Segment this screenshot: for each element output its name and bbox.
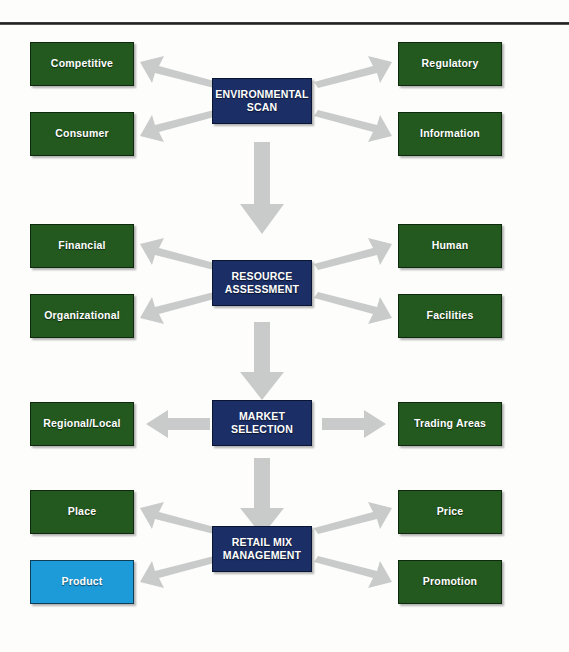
node-label: Price bbox=[433, 505, 468, 518]
arrow-resource-to-facilities bbox=[314, 292, 392, 324]
node-place[interactable]: Place bbox=[30, 490, 134, 534]
node-organizational[interactable]: Organizational bbox=[30, 294, 134, 338]
node-financial[interactable]: Financial bbox=[30, 224, 134, 268]
node-label: ENVIRONMENTAL SCAN bbox=[211, 88, 312, 114]
arrow-resource-to-financial bbox=[140, 238, 218, 270]
node-promotion[interactable]: Promotion bbox=[398, 560, 502, 604]
node-label: Trading Areas bbox=[410, 417, 490, 430]
node-regulatory[interactable]: Regulatory bbox=[398, 42, 502, 86]
node-label: Competitive bbox=[47, 57, 117, 70]
node-competitive[interactable]: Competitive bbox=[30, 42, 134, 86]
node-regional-local[interactable]: Regional/Local bbox=[30, 402, 134, 446]
arrow-scan-to-competitive bbox=[140, 56, 218, 88]
arrow-resource-to-organizational bbox=[140, 292, 218, 324]
node-retail-mix-management[interactable]: RETAIL MIX MANAGEMENT bbox=[212, 526, 312, 572]
node-trading-areas[interactable]: Trading Areas bbox=[398, 402, 502, 446]
node-label: Consumer bbox=[51, 127, 113, 140]
arrow-scan-to-resource bbox=[238, 142, 286, 234]
node-information[interactable]: Information bbox=[398, 112, 502, 156]
node-label: Financial bbox=[54, 239, 109, 252]
header-divider-rule bbox=[0, 22, 569, 25]
arrow-retailmix-to-promotion bbox=[314, 556, 392, 588]
node-label: Regulatory bbox=[418, 57, 483, 70]
node-label: RESOURCE ASSESSMENT bbox=[221, 270, 303, 296]
node-label: Product bbox=[57, 575, 106, 588]
node-label: Information bbox=[416, 127, 484, 140]
arrow-scan-to-consumer bbox=[140, 110, 218, 142]
node-label: Facilities bbox=[423, 309, 478, 322]
node-human[interactable]: Human bbox=[398, 224, 502, 268]
node-resource-assessment[interactable]: RESOURCE ASSESSMENT bbox=[212, 260, 312, 306]
node-facilities[interactable]: Facilities bbox=[398, 294, 502, 338]
node-environmental-scan[interactable]: ENVIRONMENTAL SCAN bbox=[212, 78, 312, 124]
node-market-selection[interactable]: MARKET SELECTION bbox=[212, 400, 312, 446]
node-label: Promotion bbox=[419, 575, 481, 588]
node-label: Human bbox=[428, 239, 473, 252]
arrow-resource-to-market bbox=[238, 322, 286, 400]
node-consumer[interactable]: Consumer bbox=[30, 112, 134, 156]
arrow-market-to-retail-mix bbox=[238, 458, 286, 536]
arrow-scan-to-information bbox=[314, 110, 392, 142]
arrow-retailmix-to-product bbox=[140, 556, 218, 588]
node-label: Regional/Local bbox=[39, 417, 124, 430]
node-product[interactable]: Product bbox=[30, 560, 134, 604]
arrow-scan-to-regulatory bbox=[314, 56, 392, 88]
arrow-retailmix-to-place bbox=[140, 502, 218, 534]
arrow-market-to-regional bbox=[146, 410, 210, 438]
arrow-market-to-trading bbox=[322, 410, 386, 438]
node-label: RETAIL MIX MANAGEMENT bbox=[219, 536, 305, 562]
arrow-retailmix-to-price bbox=[314, 502, 392, 534]
diagram-canvas: Competitive Consumer Regulatory Informat… bbox=[0, 0, 569, 652]
node-label: Place bbox=[64, 505, 100, 518]
node-price[interactable]: Price bbox=[398, 490, 502, 534]
node-label: Organizational bbox=[40, 309, 124, 322]
node-label: MARKET SELECTION bbox=[227, 410, 297, 436]
arrow-resource-to-human bbox=[314, 238, 392, 270]
